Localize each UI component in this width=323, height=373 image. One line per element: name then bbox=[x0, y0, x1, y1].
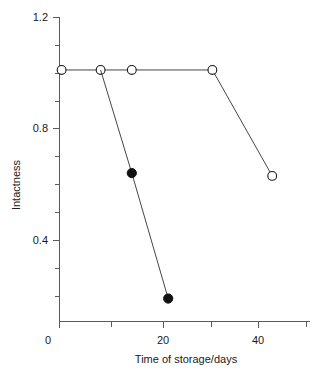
chart-background bbox=[0, 0, 323, 373]
data-point-open-circles-0 bbox=[57, 66, 66, 75]
chart-figure: 1.2 0.8 0.4 0 20 40 Time of storage/days… bbox=[0, 0, 323, 373]
y-tick-label-0-8: 0.8 bbox=[33, 122, 48, 134]
y-tick-label-0-4: 0.4 bbox=[33, 234, 48, 246]
line-chart-svg: 1.2 0.8 0.4 0 20 40 Time of storage/days… bbox=[0, 0, 323, 373]
x-tick-label-40: 40 bbox=[252, 334, 264, 346]
data-point-open-circles-3 bbox=[208, 66, 217, 75]
data-point-open-circles-2 bbox=[127, 66, 136, 75]
data-point-filled-circles-1 bbox=[127, 169, 136, 178]
data-point-open-circles-4 bbox=[268, 171, 277, 180]
y-axis-title: Intactness bbox=[10, 159, 22, 210]
x-tick-label-0: 0 bbox=[45, 334, 51, 346]
data-point-filled-circles-2 bbox=[164, 294, 173, 303]
y-tick-label-1-2: 1.2 bbox=[33, 11, 48, 23]
x-tick-label-20: 20 bbox=[157, 334, 169, 346]
x-axis-title: Time of storage/days bbox=[135, 353, 238, 365]
